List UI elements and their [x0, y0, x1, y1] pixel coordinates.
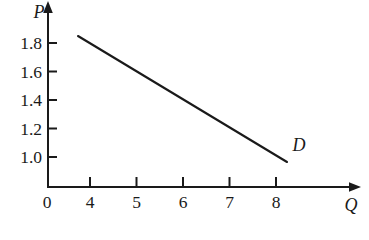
- y-tick-label-1-6: 1.6: [20, 62, 42, 82]
- demand-curve-line: [78, 36, 287, 162]
- origin-label: 0: [43, 192, 52, 212]
- demand-curve-figure: 1.8 1.6 1.4 1.2 1.0 0 4 5 6 7 8 P Q D: [0, 0, 369, 240]
- x-tick-label-4: 4: [86, 192, 95, 212]
- y-tick-label-1-4: 1.4: [20, 90, 42, 110]
- x-tick-label-8: 8: [272, 192, 281, 212]
- chart-svg: 1.8 1.6 1.4 1.2 1.0 0 4 5 6 7 8 P Q D: [0, 0, 369, 240]
- demand-curve-label: D: [292, 135, 306, 155]
- x-axis-title: Q: [345, 195, 358, 215]
- x-tick-label-5: 5: [132, 192, 141, 212]
- x-tick-label-6: 6: [179, 192, 188, 212]
- y-tick-label-1-2: 1.2: [20, 119, 42, 139]
- y-axis-arrowhead: [43, 1, 53, 13]
- x-tick-label-7: 7: [225, 192, 234, 212]
- y-tick-label-1-0: 1.0: [20, 147, 42, 167]
- y-tick-label-1-8: 1.8: [20, 33, 42, 53]
- x-axis-arrowhead: [349, 182, 361, 192]
- y-axis-title: P: [33, 2, 45, 22]
